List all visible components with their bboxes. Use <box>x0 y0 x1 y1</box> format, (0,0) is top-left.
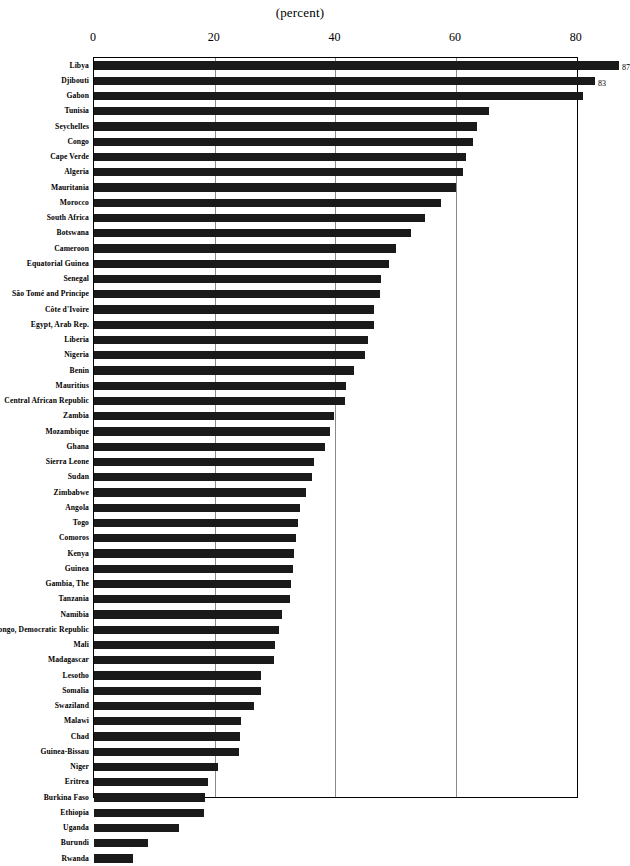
bar <box>94 809 204 817</box>
bar-category-label: Tanzania <box>59 591 90 606</box>
bar-row: Kenya <box>94 546 577 561</box>
bar-category-label: Gambia, The <box>45 576 89 591</box>
bar-category-label: Benin <box>70 363 90 378</box>
bar-category-label: Burundi <box>61 835 89 850</box>
bar-category-label: Swaziland <box>55 698 89 713</box>
bar <box>94 854 133 862</box>
bar-category-label: Botswana <box>57 225 89 240</box>
bar <box>94 183 456 191</box>
bar-category-label: Guinea <box>65 561 89 576</box>
bar-category-label: Morocco <box>60 195 89 210</box>
bar-row: Gambia, The <box>94 577 577 592</box>
bar-category-label: Angola <box>65 500 89 515</box>
bar-row: Algeria <box>94 165 577 180</box>
x-tick-40: 40 <box>328 30 340 45</box>
bar-category-label: Zambia <box>63 408 89 423</box>
bar-row: Congo, Democratic Republic <box>94 622 577 637</box>
bar <box>94 214 425 222</box>
bar-row: Botswana <box>94 226 577 241</box>
bar-row: Tanzania <box>94 592 577 607</box>
bar <box>94 748 239 756</box>
bar-category-label: Togo <box>73 515 89 530</box>
bar-category-label: Ethiopia <box>60 805 89 820</box>
bar <box>94 656 274 664</box>
bar <box>94 382 346 390</box>
bar <box>94 321 374 329</box>
bar-row: Guinea-Bissau <box>94 744 577 759</box>
bar-row: Madagascar <box>94 653 577 668</box>
bar-row: Djibouti83 <box>94 73 577 88</box>
bar <box>94 473 312 481</box>
bar-category-label: Sudan <box>68 469 89 484</box>
bar-row: Cape Verde <box>94 150 577 165</box>
bar <box>94 244 396 252</box>
bar-category-label: Somalia <box>62 683 89 698</box>
bar-row: Zimbabwe <box>94 485 577 500</box>
x-tick-0: 0 <box>90 30 96 45</box>
bar-category-label: Sierra Leone <box>46 454 89 469</box>
x-axis-tick-labels: 020406080 <box>0 30 600 48</box>
bar-row: Mozambique <box>94 424 577 439</box>
bar-row: Libya87 <box>94 58 577 73</box>
bar-row: Somalia <box>94 683 577 698</box>
bar-category-label: Namibia <box>60 607 89 622</box>
bar <box>94 153 466 161</box>
bar-row: São Tomé and Principe <box>94 287 577 302</box>
bar-category-label: Congo, Democratic Republic <box>0 622 89 637</box>
bar-category-label: Mauritania <box>51 180 89 195</box>
bar <box>94 336 368 344</box>
bar-row: Sierra Leone <box>94 455 577 470</box>
bar-category-label: Libya <box>70 58 90 73</box>
bar <box>94 839 148 847</box>
bar-row: Uganda <box>94 821 577 836</box>
bar <box>94 565 293 573</box>
bar <box>94 443 325 451</box>
bar-category-label: Guinea-Bissau <box>40 744 89 759</box>
bar-row: Mali <box>94 638 577 653</box>
bar-category-label: Niger <box>70 759 89 774</box>
bar-row: Gabon <box>94 89 577 104</box>
bar <box>94 732 240 740</box>
bar <box>94 488 306 496</box>
bar-category-label: Nigeria <box>64 347 89 362</box>
bar <box>94 199 441 207</box>
bar <box>94 687 261 695</box>
x-tick-20: 20 <box>208 30 220 45</box>
bar-category-label: Côte d'Ivoire <box>45 302 89 317</box>
bar <box>94 793 205 801</box>
bar <box>94 260 389 268</box>
bar-category-label: Tunisia <box>65 103 90 118</box>
x-tick-60: 60 <box>449 30 461 45</box>
bar-row: Niger <box>94 760 577 775</box>
bar <box>94 92 583 100</box>
bar <box>94 778 208 786</box>
bar-category-label: São Tomé and Principe <box>12 286 89 301</box>
bar-row: Central African Republic <box>94 394 577 409</box>
bar-category-label: Cameroon <box>54 241 89 256</box>
bar <box>94 229 411 237</box>
bar-row: Malawi <box>94 714 577 729</box>
bar <box>94 702 254 710</box>
bar <box>94 671 261 679</box>
bar <box>94 519 298 527</box>
bar-rows: Libya87Djibouti83GabonTunisiaSeychellesC… <box>94 58 577 797</box>
bar-row: Nigeria <box>94 348 577 363</box>
bar-row: Togo <box>94 516 577 531</box>
bar-row: Benin <box>94 363 577 378</box>
bar-category-label: Mauritius <box>56 378 89 393</box>
bar-category-label: Equatorial Guinea <box>27 256 89 271</box>
bar <box>94 549 294 557</box>
bar-row: Equatorial Guinea <box>94 256 577 271</box>
bar-category-label: Lesotho <box>63 668 89 683</box>
bar-row: Mauritius <box>94 378 577 393</box>
bar-category-label: Senegal <box>63 271 89 286</box>
bar-category-label: Mozambique <box>45 424 89 439</box>
bar <box>94 351 365 359</box>
bar-category-label: Cape Verde <box>50 149 89 164</box>
bar <box>94 427 330 435</box>
bar-row: Egypt, Arab Rep. <box>94 317 577 332</box>
bar-category-label: Madagascar <box>48 652 89 667</box>
bar-category-label: Eritrea <box>65 774 89 789</box>
bar-category-label: Algeria <box>64 164 89 179</box>
